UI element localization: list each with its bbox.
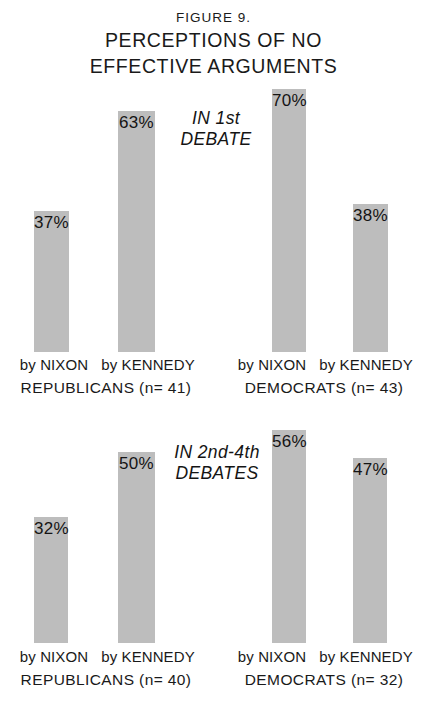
axis-source-row: by NIXONby KENNEDY bbox=[6, 354, 206, 376]
axis-source-kennedy: by KENNEDY bbox=[314, 646, 418, 668]
bar-first-republicans-kennedy: 63% bbox=[118, 111, 155, 352]
axis-source-nixon: by NIXON bbox=[230, 646, 314, 668]
bar-value-label: 32% bbox=[34, 519, 68, 538]
axis-group-first-republicans: by NIXONby KENNEDY REPUBLICANS (n= 41) bbox=[6, 354, 206, 400]
axis-source-kennedy: by KENNEDY bbox=[96, 354, 200, 376]
bar-value-label: 56% bbox=[272, 432, 306, 451]
plot-area-first-debate: IN 1st DEBATE 37% 63% 70% 38% bbox=[0, 88, 427, 352]
bar-later-democrats-nixon: 56% bbox=[272, 430, 306, 643]
axis-source-nixon: by NIXON bbox=[12, 646, 96, 668]
axis-source-nixon: by NIXON bbox=[230, 354, 314, 376]
axis-source-row: by NIXONby KENNEDY bbox=[6, 646, 206, 668]
axis-group-first-democrats: by NIXONby KENNEDY DEMOCRATS (n= 43) bbox=[224, 354, 424, 400]
axis-source-nixon: by NIXON bbox=[12, 354, 96, 376]
bar-first-democrats-kennedy: 38% bbox=[353, 204, 388, 352]
axis-party-label: REPUBLICANS (n= 40) bbox=[6, 668, 206, 692]
bar-value-label: 47% bbox=[353, 460, 387, 479]
axis-source-row: by NIXONby KENNEDY bbox=[224, 646, 424, 668]
panel-caption-first-debate: IN 1st DEBATE bbox=[155, 108, 277, 150]
bar-later-republicans-kennedy: 50% bbox=[118, 452, 155, 643]
bar-value-label: 38% bbox=[353, 206, 388, 225]
axis-party-label: REPUBLICANS (n= 41) bbox=[6, 376, 206, 400]
axis-party-label: DEMOCRATS (n= 43) bbox=[224, 376, 424, 400]
axis-group-later-republicans: by NIXONby KENNEDY REPUBLICANS (n= 40) bbox=[6, 646, 206, 692]
chart-title-block: FIGURE 9. PERCEPTIONS OF NO EFFECTIVE AR… bbox=[0, 8, 427, 79]
plot-area-later-debates: IN 2nd-4th DEBATES 32% 50% 56% 47% bbox=[0, 420, 427, 643]
figure-number: FIGURE 9. bbox=[0, 8, 427, 27]
panel-caption-line-1: IN 2nd-4th bbox=[146, 442, 288, 463]
axis-source-kennedy: by KENNEDY bbox=[96, 646, 200, 668]
panel-caption-line-2: DEBATES bbox=[146, 463, 288, 484]
bar-value-label: 70% bbox=[272, 91, 306, 110]
panel-caption-line-2: DEBATE bbox=[155, 129, 277, 150]
bar-value-label: 50% bbox=[118, 454, 155, 473]
axis-source-row: by NIXONby KENNEDY bbox=[224, 354, 424, 376]
axis-group-later-democrats: by NIXONby KENNEDY DEMOCRATS (n= 32) bbox=[224, 646, 424, 692]
bar-later-democrats-kennedy: 47% bbox=[353, 458, 387, 643]
axis-party-label: DEMOCRATS (n= 32) bbox=[224, 668, 424, 692]
bar-later-republicans-nixon: 32% bbox=[34, 517, 68, 643]
panel-caption-later-debates: IN 2nd-4th DEBATES bbox=[146, 442, 288, 484]
bar-value-label: 63% bbox=[118, 113, 155, 132]
panel-caption-line-1: IN 1st bbox=[155, 108, 277, 129]
bar-value-label: 37% bbox=[34, 213, 69, 232]
chart-panel-later-debates: IN 2nd-4th DEBATES 32% 50% 56% 47% by NI… bbox=[0, 420, 427, 704]
chart-panel-first-debate: IN 1st DEBATE 37% 63% 70% 38% by NIXONby… bbox=[0, 88, 427, 413]
page-title-line-2: EFFECTIVE ARGUMENTS bbox=[0, 53, 427, 79]
bar-first-republicans-nixon: 37% bbox=[34, 211, 69, 352]
axis-source-kennedy: by KENNEDY bbox=[314, 354, 418, 376]
page-title-line-1: PERCEPTIONS OF NO bbox=[0, 27, 427, 53]
bar-first-democrats-nixon: 70% bbox=[272, 89, 306, 352]
